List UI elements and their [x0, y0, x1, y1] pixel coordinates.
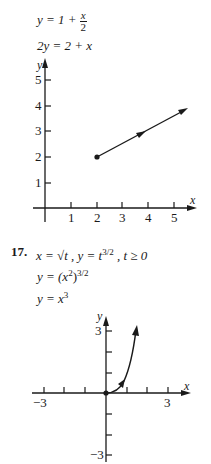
y-tick-3: 3 — [95, 323, 102, 338]
graph2-y-axis-label: y — [96, 309, 103, 323]
graph2-x-axis-label: x — [183, 379, 190, 393]
graph2-labels: y x 3 −3 −3 3 — [0, 0, 211, 464]
x-tick-3: 3 — [164, 395, 171, 410]
x-tick-neg-3: −3 — [33, 395, 47, 410]
y-tick-neg-3: −3 — [90, 447, 104, 462]
